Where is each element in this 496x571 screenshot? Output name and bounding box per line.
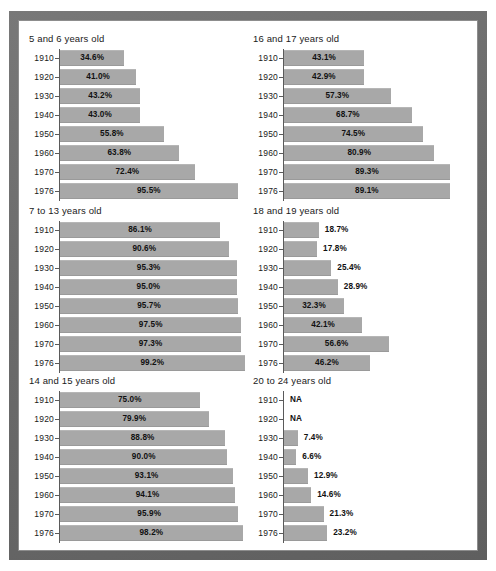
chart-year-label: 1940 [29, 448, 54, 467]
chart-bar [284, 279, 338, 295]
chart-panel: 18 and 19 years old191018.7%192017.8%193… [253, 205, 472, 375]
chart-bar-row: 197698.2% [29, 524, 248, 543]
chart-bar-row: 197072.4% [29, 163, 248, 182]
chart-bar-rows: 191043.1%192042.9%193057.3%194068.7%1950… [253, 49, 472, 201]
chart-panel: 16 and 17 years old191043.1%192042.9%193… [253, 33, 472, 203]
chart-bar-value-label: 95.5% [60, 183, 238, 199]
chart-bar-row: 196063.8% [29, 144, 248, 163]
chart-year-label: 1950 [29, 297, 54, 316]
chart-year-label: 1970 [253, 505, 278, 524]
chart-year-label: 1940 [29, 278, 54, 297]
chart-bar [284, 525, 327, 541]
chart-bar-wrapper: 43.0% [60, 107, 246, 123]
chart-bar-wrapper: 95.0% [60, 279, 246, 295]
chart-bar-row: 191018.7% [253, 221, 472, 240]
chart-bar-value-label: 74.5% [284, 126, 423, 142]
chart-bar-wrapper: 56.6% [284, 336, 470, 352]
chart-bar-wrapper: 57.3% [284, 88, 470, 104]
chart-bar-row: 196094.1% [29, 486, 248, 505]
chart-bar-wrapper: 79.9% [60, 411, 246, 427]
chart-year-label: 1930 [29, 259, 54, 278]
chart-year-label: 1950 [253, 297, 278, 316]
chart-bar-value-label: 97.5% [60, 317, 241, 333]
chart-bar-wrapper: 14.6% [284, 487, 470, 503]
chart-bar-row: 196014.6% [253, 486, 472, 505]
chart-year-label: 1910 [253, 391, 278, 410]
chart-bar-row: 195093.1% [29, 467, 248, 486]
chart-bar-value-label: 95.0% [60, 279, 237, 295]
chart-year-label: 1910 [253, 221, 278, 240]
chart-panel: 7 to 13 years old191086.1%192090.6%19309… [29, 205, 248, 375]
chart-bar-row: 196042.1% [253, 316, 472, 335]
chart-plot-area: 191075.0%192079.9%193088.8%194090.0%1950… [29, 391, 248, 543]
chart-bar-row: 193057.3% [253, 87, 472, 106]
chart-bar-value-label: NA [284, 411, 302, 427]
chart-bar-row: 1920NA [253, 410, 472, 429]
chart-year-label: 1950 [29, 467, 54, 486]
chart-bar-value-label: 42.1% [284, 317, 362, 333]
chart-bar-value-label: 28.9% [338, 279, 368, 295]
chart-bar-value-label: 86.1% [60, 222, 220, 238]
chart-bar-rows: 191034.6%192041.0%193043.2%194043.0%1950… [29, 49, 248, 201]
chart-bar-value-label: 98.2% [60, 525, 243, 541]
chart-year-label: 1950 [253, 467, 278, 486]
chart-bar-wrapper: NA [284, 411, 470, 427]
chart-year-label: 1960 [29, 316, 54, 335]
chart-plot-area: 191086.1%192090.6%193095.3%194095.0%1950… [29, 221, 248, 373]
chart-bar-value-label: 6.6% [296, 449, 321, 465]
chart-bar-wrapper: 68.7% [284, 107, 470, 123]
chart-bar-wrapper: 42.9% [284, 69, 470, 85]
chart-bar-row: 195055.8% [29, 125, 248, 144]
chart-bar-wrapper: 18.7% [284, 222, 470, 238]
chart-bar-wrapper: 75.0% [60, 392, 246, 408]
chart-bar-row: 197623.2% [253, 524, 472, 543]
chart-bar-wrapper: 97.3% [60, 336, 246, 352]
chart-bar-row: 194090.0% [29, 448, 248, 467]
chart-panel: 14 and 15 years old191075.0%192079.9%193… [29, 375, 248, 545]
chart-bar-wrapper: 88.8% [60, 430, 246, 446]
chart-bar-row: 192017.8% [253, 240, 472, 259]
chart-bar-row: 197699.2% [29, 354, 248, 373]
chart-bar-value-label: 43.1% [284, 50, 364, 66]
chart-year-label: 1940 [253, 106, 278, 125]
chart-bar-wrapper: 41.0% [60, 69, 246, 85]
chart-year-label: 1940 [253, 278, 278, 297]
chart-bar-wrapper: 23.2% [284, 525, 470, 541]
chart-bar-wrapper: 86.1% [60, 222, 246, 238]
chart-year-label: 1970 [29, 163, 54, 182]
chart-bar-value-label: 12.9% [308, 468, 338, 484]
chart-year-label: 1920 [29, 240, 54, 259]
chart-bar [284, 430, 298, 446]
chart-bar-wrapper: 43.2% [60, 88, 246, 104]
chart-bar-value-label: 95.9% [60, 506, 238, 522]
chart-panel: 5 and 6 years old191034.6%192041.0%19304… [29, 33, 248, 203]
chart-bar-row: 194028.9% [253, 278, 472, 297]
chart-bar-wrapper: 89.3% [284, 164, 470, 180]
chart-bar-row: 19307.4% [253, 429, 472, 448]
chart-bar-wrapper: 34.6% [60, 50, 246, 66]
chart-year-label: 1970 [29, 335, 54, 354]
chart-bar [284, 222, 319, 238]
chart-year-label: 1970 [253, 335, 278, 354]
poster-frame: 5 and 6 years old191034.6%192041.0%19304… [9, 11, 487, 560]
chart-plot-area: 1910NA1920NA19307.4%19406.6%195012.9%196… [253, 391, 472, 543]
chart-bar-wrapper: 25.4% [284, 260, 470, 276]
chart-bar-wrapper: 90.0% [60, 449, 246, 465]
chart-bar-row: 192090.6% [29, 240, 248, 259]
chart-year-label: 1976 [29, 182, 54, 201]
chart-bar-row: 197695.5% [29, 182, 248, 201]
chart-plot-area: 191043.1%192042.9%193057.3%194068.7%1950… [253, 49, 472, 201]
chart-bar-rows: 191086.1%192090.6%193095.3%194095.0%1950… [29, 221, 248, 373]
chart-bar-value-label: 43.0% [60, 107, 140, 123]
chart-bar-wrapper: 94.1% [60, 487, 246, 503]
chart-bar-row: 196097.5% [29, 316, 248, 335]
chart-bar-row: 197021.3% [253, 505, 472, 524]
chart-year-label: 1930 [29, 429, 54, 448]
chart-year-label: 1930 [29, 87, 54, 106]
chart-bar [284, 449, 296, 465]
chart-bar-value-label: 97.3% [60, 336, 241, 352]
chart-bar-value-label: 79.9% [60, 411, 209, 427]
chart-bar-wrapper: 80.9% [284, 145, 470, 161]
chart-year-label: 1940 [253, 448, 278, 467]
chart-bar-wrapper: 98.2% [60, 525, 246, 541]
